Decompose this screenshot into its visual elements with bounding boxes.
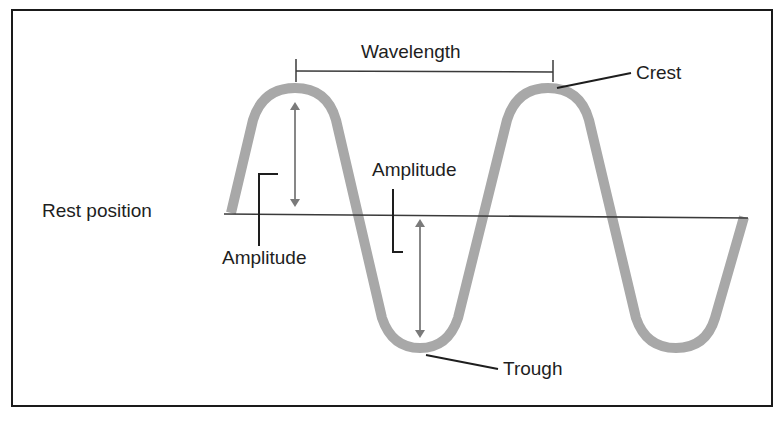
trough-label: Trough [503,359,563,378]
trough-leader [426,355,498,369]
amplitude-bracket-right [393,189,403,252]
amplitude-label-upper: Amplitude [372,160,457,179]
wavelength-label: Wavelength [361,42,461,61]
rest-position-label: Rest position [42,201,152,220]
amplitude-label-lower: Amplitude [222,248,307,267]
wavelength-bar [296,59,553,82]
crest-label: Crest [636,63,681,82]
crest-leader [557,73,631,88]
amplitude-bracket-left [259,174,278,246]
